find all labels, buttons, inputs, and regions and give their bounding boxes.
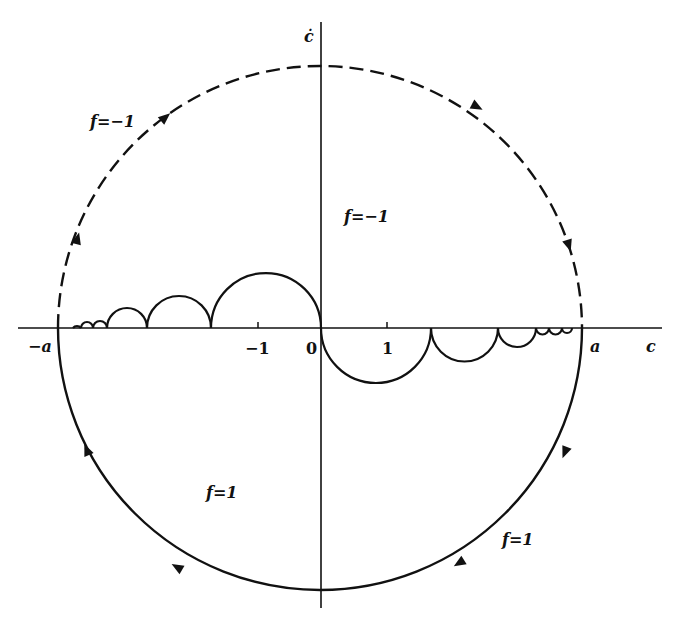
- switching-curve-left: [73, 273, 321, 328]
- x-axis-label: c: [646, 337, 656, 356]
- neg-one-label: −1: [245, 339, 270, 358]
- switching-curve-right: [321, 328, 572, 383]
- lower-region-label: f=1: [205, 483, 237, 502]
- neg-a-label: −a: [28, 337, 52, 356]
- lower-boundary-solid: [58, 328, 582, 590]
- diagram-canvas: ċ c −a a −1 0 1 f=−1 f=−1 f=1 f=1: [0, 0, 680, 625]
- arrow-icon: [470, 100, 485, 114]
- lower-boundary-label: f=1: [501, 530, 533, 549]
- arrow-icon: [558, 445, 572, 460]
- upper-region-label: f=−1: [343, 207, 389, 226]
- pos-a-label: a: [590, 337, 600, 356]
- y-axis-label: ċ: [304, 27, 314, 46]
- arrow-icon: [451, 556, 466, 571]
- arrow-icon: [562, 238, 575, 253]
- phase-plane-diagram: ċ c −a a −1 0 1 f=−1 f=−1 f=1 f=1: [0, 0, 680, 625]
- arrow-icon: [169, 560, 184, 575]
- upper-boundary-label: f=−1: [89, 112, 135, 131]
- one-label: 1: [382, 339, 393, 358]
- zero-label: 0: [306, 339, 317, 358]
- upper-boundary-dashed: [58, 66, 582, 328]
